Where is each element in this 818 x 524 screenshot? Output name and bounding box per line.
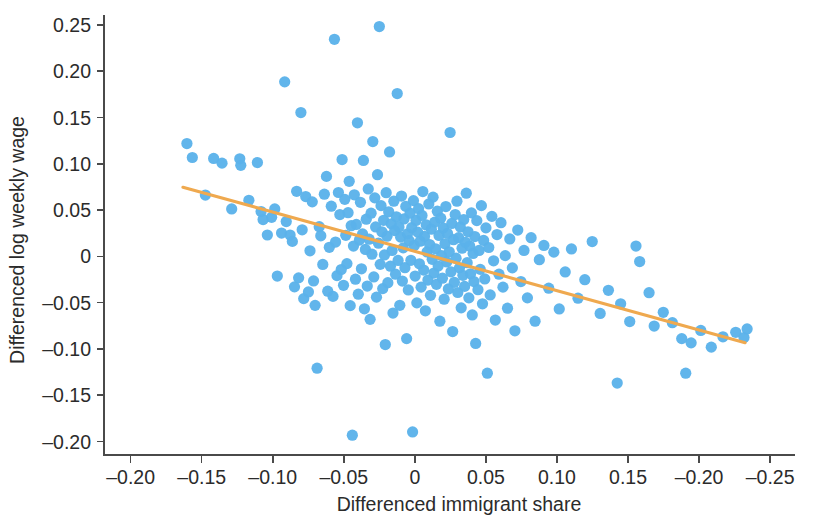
y-tick-labels: 0.250.200.150.100.050–0.05–0.10–0.15–0.2… — [42, 14, 91, 453]
regression-fit-line — [183, 187, 745, 342]
scatter-point — [603, 285, 614, 296]
scatter-point — [338, 280, 349, 291]
scatter-point — [427, 192, 438, 203]
scatter-point — [658, 307, 669, 318]
scatter-point — [187, 152, 198, 163]
scatter-point — [287, 236, 298, 247]
scatter-point — [358, 155, 369, 166]
y-tick-label: 0.25 — [53, 14, 91, 36]
x-tick-label: –0.10 — [248, 466, 297, 488]
scatter-point — [444, 127, 455, 138]
scatter-point — [368, 271, 379, 282]
scatter-point — [380, 339, 391, 350]
scatter-point — [303, 286, 314, 297]
scatter-point — [319, 189, 330, 200]
scatter-point — [381, 187, 392, 198]
scatter-point — [417, 186, 428, 197]
scatter-point — [634, 256, 645, 267]
scatter-point — [392, 88, 403, 99]
scatter-point — [470, 338, 481, 349]
scatter-point — [304, 245, 315, 256]
scatter-point — [534, 254, 545, 265]
y-tick-label: 0.10 — [53, 153, 91, 175]
scatter-point — [329, 34, 340, 45]
scatter-point — [560, 266, 571, 277]
scatter-point — [538, 240, 549, 251]
scatter-point — [490, 314, 501, 325]
scatter-point — [326, 201, 337, 212]
scatter-point — [347, 430, 358, 441]
scatter-point — [366, 249, 377, 260]
scatter-point — [293, 272, 304, 283]
scatter-point — [321, 171, 332, 182]
scatter-point — [477, 298, 488, 309]
scatter-point — [566, 243, 577, 254]
scatter-point — [471, 215, 482, 226]
x-tick-label: –0.05 — [319, 466, 368, 488]
scatter-point — [680, 368, 691, 379]
scatter-point — [440, 201, 451, 212]
scatter-point — [579, 274, 590, 285]
scatter-point — [345, 300, 356, 311]
x-tick-label: –0.20 — [675, 466, 724, 488]
scatter-point — [307, 196, 318, 207]
scatter-point — [529, 316, 540, 327]
scatter-point — [342, 207, 353, 218]
x-tick-label: 0.05 — [467, 466, 505, 488]
scatter-point — [451, 196, 462, 207]
scatter-point — [272, 270, 283, 281]
scatter-point — [472, 284, 483, 295]
scatter-point — [595, 308, 606, 319]
scatter-point — [485, 289, 496, 300]
scatter-point — [327, 291, 338, 302]
scatter-point — [359, 303, 370, 314]
plot-canvas: –0.20–0.15–0.10–0.0500.050.100.15–0.20–0… — [0, 0, 818, 524]
scatter-point — [447, 326, 458, 337]
scatter-plot-figure: –0.20–0.15–0.10–0.0500.050.100.15–0.20–0… — [0, 0, 818, 524]
scatter-point — [394, 300, 405, 311]
scatter-point — [624, 316, 635, 327]
x-tick-labels: –0.20–0.15–0.10–0.0500.050.100.15–0.20–0… — [106, 466, 794, 488]
scatter-point — [456, 302, 467, 313]
y-tick-label: 0.05 — [53, 199, 91, 221]
scatter-point — [297, 224, 308, 235]
scatter-point — [351, 219, 362, 230]
scatter-point — [486, 211, 497, 222]
scatter-point — [181, 138, 192, 149]
scatter-point — [480, 222, 491, 233]
scatter-point — [330, 236, 341, 247]
scatter-point — [344, 176, 355, 187]
scatter-points-group — [181, 21, 752, 441]
scatter-point — [612, 377, 623, 388]
scatter-point — [522, 292, 533, 303]
scatter-point — [502, 303, 513, 314]
fit-line-group — [183, 187, 745, 342]
x-tick-label: 0.15 — [609, 466, 647, 488]
scatter-point — [315, 230, 326, 241]
scatter-point — [643, 287, 654, 298]
x-tick-label: 0 — [409, 466, 420, 488]
scatter-point — [352, 117, 363, 128]
scatter-point — [476, 200, 487, 211]
y-tick-label: 0.15 — [53, 107, 91, 129]
scatter-point — [364, 314, 375, 325]
scatter-point — [311, 363, 322, 374]
x-axis-title: Differenced immigrant share — [337, 493, 582, 515]
scatter-point — [403, 284, 414, 295]
scatter-point — [374, 21, 385, 32]
scatter-point — [252, 157, 263, 168]
scatter-point — [495, 217, 506, 228]
scatter-point — [262, 229, 273, 240]
scatter-point — [504, 233, 515, 244]
scatter-point — [308, 275, 319, 286]
scatter-point — [706, 342, 717, 353]
scatter-point — [365, 208, 376, 219]
scatter-point — [350, 274, 361, 285]
scatter-point — [473, 245, 484, 256]
scatter-point — [463, 292, 474, 303]
scatter-point — [336, 154, 347, 165]
scatter-point — [367, 136, 378, 147]
y-tick-label: –0.20 — [42, 431, 91, 453]
scatter-point — [295, 107, 306, 118]
scatter-point — [482, 368, 493, 379]
